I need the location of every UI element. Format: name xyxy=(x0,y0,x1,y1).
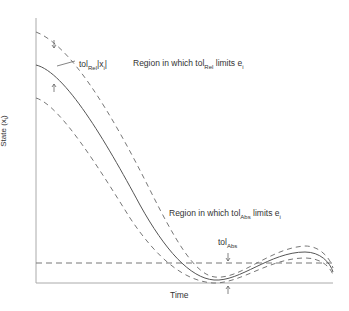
diagram-canvas xyxy=(0,0,349,311)
tol-rel-up-arrow xyxy=(52,84,56,92)
tol-rel-marker xyxy=(57,61,75,66)
lower-bound-curve xyxy=(36,98,333,283)
tol-abs-label: tolAbs xyxy=(218,238,237,249)
tol-abs-up-arrow xyxy=(226,286,230,294)
region-abs-label: Region in which tolAbs limits ei xyxy=(169,209,281,220)
y-axis-label: State (xi) xyxy=(0,115,9,146)
tol-rel-label: tolRel|xi| xyxy=(79,60,107,71)
x-axis-label: Time xyxy=(170,291,189,300)
region-rel-label: Region in which tolRel limits ei xyxy=(133,59,244,70)
solution-curve xyxy=(36,65,333,280)
tol-abs-down-arrow xyxy=(226,253,230,261)
